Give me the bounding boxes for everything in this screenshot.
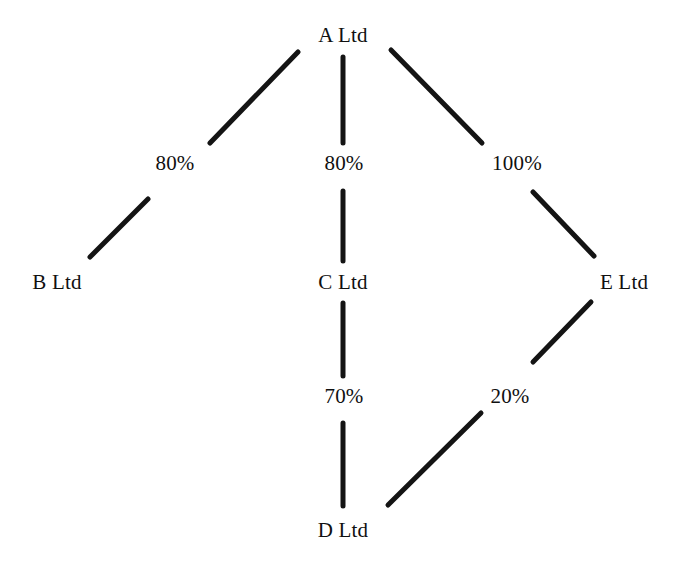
node-label-c: C Ltd	[318, 270, 367, 295]
edge-label-c-d: 70%	[321, 384, 366, 409]
node-label-a: A Ltd	[318, 23, 367, 48]
diagram-canvas: 80%80%100%70%20%A LtdB LtdC LtdE LtdD Lt…	[0, 0, 686, 565]
edge-segment-a-b-1	[210, 52, 298, 143]
edge-segment-e-d-1	[533, 302, 591, 362]
edge-segment-e-d-2	[388, 413, 481, 505]
node-label-d: D Ltd	[318, 518, 369, 543]
edge-label-a-b: 80%	[152, 151, 197, 176]
edge-label-e-d: 20%	[487, 384, 532, 409]
edge-segment-a-e-1	[391, 50, 482, 143]
edge-segment-a-b-2	[90, 199, 148, 257]
node-label-e: E Ltd	[600, 270, 648, 295]
edge-label-a-e: 100%	[489, 151, 545, 176]
edge-label-a-c: 80%	[321, 151, 366, 176]
edge-segment-a-e-2	[533, 192, 594, 256]
node-label-b: B Ltd	[32, 270, 81, 295]
